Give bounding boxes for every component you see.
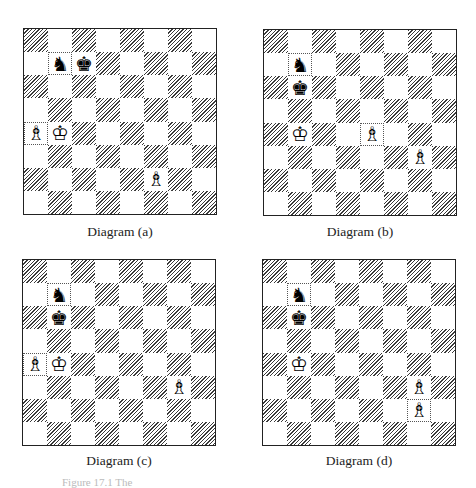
black-king-icon: ♚: [287, 306, 311, 329]
square-b8: [47, 260, 71, 283]
caption-a: Diagram (a): [23, 224, 217, 240]
square-a8: [264, 30, 288, 53]
square-f6: [384, 76, 408, 99]
square-f7: [143, 283, 167, 306]
square-d4: [96, 122, 120, 145]
square-c6: [311, 306, 335, 329]
square-f4: [143, 353, 167, 376]
square-c8: [312, 30, 336, 53]
square-d1: [335, 422, 359, 445]
square-c1: [71, 422, 95, 445]
square-f1: [383, 422, 407, 445]
square-h8: [192, 29, 216, 52]
square-d5: [95, 329, 119, 352]
square-a2: [24, 168, 48, 191]
square-g5: [167, 329, 191, 352]
square-d7: [96, 52, 120, 75]
white-bishop-icon: ♗: [408, 146, 432, 169]
square-c2: [311, 399, 335, 422]
square-c7: ♚: [72, 52, 96, 75]
square-c7: [71, 283, 95, 306]
square-b6: [48, 75, 72, 98]
square-f5: [143, 329, 167, 352]
square-d2: [335, 399, 359, 422]
square-c8: [311, 260, 335, 283]
square-b6: ♚: [288, 76, 312, 99]
square-h2: [192, 168, 216, 191]
square-a1: [263, 422, 287, 445]
square-c4: [311, 353, 335, 376]
square-c2: [71, 399, 95, 422]
black-king-icon: ♚: [72, 52, 96, 75]
square-g8: [168, 29, 192, 52]
square-a4: [263, 353, 287, 376]
square-h2: [191, 399, 215, 422]
square-f7: [144, 52, 168, 75]
square-e3: [360, 146, 384, 169]
square-h7: [431, 283, 455, 306]
square-c2: [312, 169, 336, 192]
black-knight-icon: ♞: [48, 52, 72, 75]
chessboard-d: ♞♚♔♗♗: [262, 259, 456, 446]
square-e7: [120, 52, 144, 75]
square-e6: [119, 306, 143, 329]
square-h4: [191, 353, 215, 376]
square-c5: [72, 98, 96, 121]
square-a8: [263, 260, 287, 283]
square-d4: [335, 353, 359, 376]
square-c2: [72, 168, 96, 191]
square-b2: [48, 168, 72, 191]
square-g5: [408, 99, 432, 122]
square-b3: [287, 376, 311, 399]
square-f8: [383, 260, 407, 283]
black-knight-icon: ♞: [287, 283, 311, 306]
square-d4: [95, 353, 119, 376]
square-d7: [95, 283, 119, 306]
square-a7: [264, 53, 288, 76]
square-h4: [431, 353, 455, 376]
square-g1: [167, 422, 191, 445]
square-g5: [407, 329, 431, 352]
white-king-icon: ♔: [48, 122, 72, 145]
square-a5: [23, 329, 47, 352]
black-knight-icon: ♞: [47, 283, 71, 306]
square-a6: [263, 306, 287, 329]
square-e4: [359, 353, 383, 376]
square-d3: [95, 376, 119, 399]
square-e1: [360, 192, 384, 215]
square-d2: [336, 169, 360, 192]
square-c3: [311, 376, 335, 399]
square-h2: [431, 399, 455, 422]
square-c3: [72, 145, 96, 168]
square-e8: [360, 30, 384, 53]
square-e7: [360, 53, 384, 76]
square-e8: [120, 29, 144, 52]
square-b1: [288, 192, 312, 215]
square-h4: [432, 123, 456, 146]
square-a1: [23, 422, 47, 445]
square-h7: [191, 283, 215, 306]
square-b4: ♔: [287, 353, 311, 376]
square-f8: [384, 30, 408, 53]
square-d3: [96, 145, 120, 168]
chessboard-b: ♞♚♔♗♗: [263, 29, 457, 216]
square-h6: [432, 76, 456, 99]
square-h5: [192, 98, 216, 121]
square-h3: [191, 376, 215, 399]
square-a7: [23, 283, 47, 306]
square-f2: [384, 169, 408, 192]
square-g2: [168, 168, 192, 191]
square-a6: [24, 75, 48, 98]
square-e8: [119, 260, 143, 283]
square-e6: [360, 76, 384, 99]
square-d2: [96, 168, 120, 191]
square-g4: [408, 123, 432, 146]
square-a2: [23, 399, 47, 422]
square-e3: [120, 145, 144, 168]
square-f1: [144, 191, 168, 214]
square-f5: [384, 99, 408, 122]
square-b8: [287, 260, 311, 283]
square-a4: [264, 123, 288, 146]
square-g1: [407, 422, 431, 445]
square-e3: [359, 376, 383, 399]
